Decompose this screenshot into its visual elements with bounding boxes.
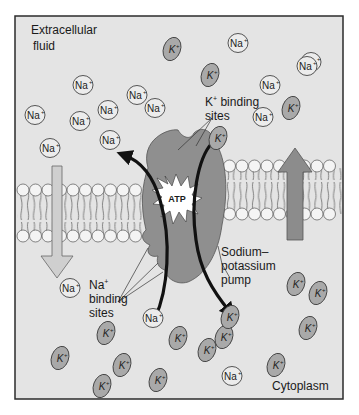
svg-text:+: + xyxy=(234,311,238,317)
phospholipid-head xyxy=(80,184,92,196)
svg-text:+: + xyxy=(312,322,316,328)
pump-label: Sodium– xyxy=(221,245,269,259)
svg-text:+: + xyxy=(313,60,317,66)
svg-text:Na: Na xyxy=(255,112,268,123)
phospholipid-head xyxy=(311,160,323,172)
k-binding-sites-label-line2: sites xyxy=(205,109,230,123)
phospholipid-head xyxy=(30,184,42,196)
phospholipid-head xyxy=(249,160,261,172)
svg-text:Na: Na xyxy=(72,116,85,127)
phospholipid-head xyxy=(80,230,92,242)
svg-text:Na: Na xyxy=(42,143,55,154)
pump-label-line2: potassium xyxy=(221,259,276,273)
cytoplasm-label: Cytoplasm xyxy=(272,379,329,393)
svg-text:+: + xyxy=(214,69,218,75)
phospholipid-head xyxy=(261,160,273,172)
sodium-ion: Na+ xyxy=(25,106,45,125)
sodium-ion: Na+ xyxy=(60,279,80,298)
phospholipid-head xyxy=(236,208,248,220)
pump-label-line3: pump xyxy=(221,273,251,287)
na-binding-sites-label-line3: sites xyxy=(89,306,114,320)
svg-text:Na: Na xyxy=(145,313,158,324)
atp-label: ATP xyxy=(168,194,185,204)
svg-text:Na: Na xyxy=(299,61,312,72)
svg-text:Na: Na xyxy=(224,371,237,382)
phospholipid-head xyxy=(224,208,236,220)
svg-text:Na: Na xyxy=(27,110,40,121)
phospholipid-head xyxy=(67,230,79,242)
phospholipid-head xyxy=(117,184,129,196)
svg-text:+: + xyxy=(280,359,284,365)
svg-text:+: + xyxy=(126,359,130,365)
svg-text:+: + xyxy=(76,282,80,288)
svg-text:+: + xyxy=(211,344,215,350)
svg-text:+: + xyxy=(89,79,93,85)
phospholipid-head xyxy=(105,230,117,242)
na-binding-sites-label-line2: binding xyxy=(89,292,128,306)
phospholipid-head xyxy=(324,160,336,172)
phospholipid-head xyxy=(261,208,273,220)
phospholipid-head xyxy=(92,184,104,196)
sodium-ion: Na+ xyxy=(98,101,118,120)
phospholipid-head xyxy=(249,208,261,220)
svg-text:Na: Na xyxy=(262,80,275,91)
lipid-bilayer-left xyxy=(17,184,147,242)
sodium-ion: Na+ xyxy=(297,57,317,76)
phospholipid-head xyxy=(67,184,79,196)
sodium-ion: Na+ xyxy=(228,34,248,53)
phospholipid-head xyxy=(130,184,142,196)
sodium-ion: Na+ xyxy=(145,99,165,118)
svg-text:Na: Na xyxy=(230,38,243,49)
phospholipid-head xyxy=(30,230,42,242)
phospholipid-head xyxy=(92,230,104,242)
svg-text:+: + xyxy=(162,374,166,380)
svg-text:+: + xyxy=(106,380,110,386)
sodium-ion: Na+ xyxy=(127,86,147,105)
svg-text:+: + xyxy=(176,43,180,49)
svg-text:Na: Na xyxy=(100,105,113,116)
svg-text:+: + xyxy=(41,109,45,115)
svg-text:Na: Na xyxy=(75,80,88,91)
svg-text:+: + xyxy=(56,142,60,148)
svg-text:+: + xyxy=(161,102,165,108)
svg-text:+: + xyxy=(222,132,226,138)
svg-text:+: + xyxy=(317,56,321,62)
extracellular-label-line2: fluid xyxy=(33,39,55,53)
sodium-ion: Na+ xyxy=(70,112,90,131)
svg-text:+: + xyxy=(322,287,326,293)
sodium-ion: Na+ xyxy=(73,76,93,95)
svg-text:+: + xyxy=(276,79,280,85)
phospholipid-head xyxy=(224,160,236,172)
sodium-ion: Na+ xyxy=(143,309,163,328)
svg-text:+: + xyxy=(300,278,304,284)
phospholipid-head xyxy=(117,230,129,242)
svg-text:Na: Na xyxy=(129,90,142,101)
svg-text:+: + xyxy=(116,134,120,140)
svg-text:+: + xyxy=(110,327,114,333)
svg-text:+: + xyxy=(228,331,232,337)
sodium-ion: Na+ xyxy=(222,367,242,386)
svg-text:Na: Na xyxy=(62,283,75,294)
extracellular-label: Extracellular xyxy=(31,23,97,37)
phospholipid-head xyxy=(274,208,286,220)
svg-text:Na: Na xyxy=(102,135,115,146)
phospholipid-head xyxy=(17,184,29,196)
sodium-ion: Na+ xyxy=(100,131,120,150)
svg-text:+: + xyxy=(114,104,118,110)
phospholipid-head xyxy=(105,184,117,196)
phospholipid-head xyxy=(311,208,323,220)
lipid-bilayer-right xyxy=(211,160,342,220)
svg-text:+: + xyxy=(244,37,248,43)
sodium-ion: Na+ xyxy=(40,139,60,158)
phospholipid-head xyxy=(130,230,142,242)
sodium-ion: Na+ xyxy=(260,76,280,95)
svg-text:+: + xyxy=(295,102,299,108)
svg-text:+: + xyxy=(159,312,163,318)
sodium-potassium-pump-diagram: ATP Extracellular fluid K+ binding sites… xyxy=(0,0,359,415)
svg-text:+: + xyxy=(64,352,68,358)
phospholipid-head xyxy=(236,160,248,172)
svg-text:+: + xyxy=(182,332,186,338)
sodium-ion: Na+ xyxy=(253,108,273,127)
svg-text:+: + xyxy=(86,115,90,121)
svg-text:+: + xyxy=(238,370,242,376)
